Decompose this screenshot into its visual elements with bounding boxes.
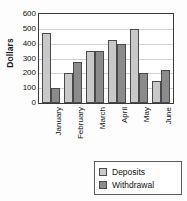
y-tick-label: 0 bbox=[14, 99, 36, 107]
x-tick-label: June bbox=[164, 107, 173, 124]
plot-area bbox=[38, 13, 174, 104]
bar-group bbox=[86, 14, 104, 103]
y-tick-label: 500 bbox=[14, 25, 36, 33]
bar-may-withdrawal bbox=[139, 73, 148, 103]
bar-group bbox=[152, 14, 170, 103]
bar-group bbox=[130, 14, 148, 103]
y-tick-label: 200 bbox=[14, 69, 36, 77]
bar-january-deposits bbox=[42, 33, 51, 103]
legend-item-withdrawal[interactable]: Withdrawal bbox=[99, 178, 177, 191]
bar-february-deposits bbox=[64, 73, 73, 103]
x-tick-label: January bbox=[54, 107, 63, 135]
bar-group bbox=[108, 14, 126, 103]
legend-item-deposits[interactable]: Deposits bbox=[99, 165, 177, 178]
bar-june-deposits bbox=[152, 81, 161, 103]
bar-april-deposits bbox=[108, 40, 117, 103]
bar-january-withdrawal bbox=[51, 88, 60, 103]
bar-groups bbox=[39, 14, 173, 103]
y-axis-tick-labels: 0100200300400500600 bbox=[14, 13, 36, 104]
chart-screenshot: Dollars 0100200300400500600 JanuaryFebru… bbox=[0, 0, 187, 201]
bar-chart: Dollars 0100200300400500600 JanuaryFebru… bbox=[0, 0, 187, 125]
legend-swatch-icon bbox=[99, 168, 107, 176]
bar-march-deposits bbox=[86, 51, 95, 103]
y-tick-label: 100 bbox=[14, 84, 36, 92]
bar-february-withdrawal bbox=[73, 62, 82, 103]
bar-may-deposits bbox=[130, 29, 139, 103]
x-tick-label: February bbox=[76, 107, 85, 139]
legend-label: Withdrawal bbox=[112, 180, 154, 190]
x-tick-label: April bbox=[120, 107, 129, 123]
legend-label: Deposits bbox=[112, 167, 145, 177]
y-tick-label: 600 bbox=[14, 10, 36, 18]
legend-swatch-icon bbox=[99, 181, 107, 189]
bar-june-withdrawal bbox=[161, 70, 170, 103]
y-tick-label: 300 bbox=[14, 55, 36, 63]
x-axis-tick-labels: JanuaryFebruaryMarchAprilMayJune bbox=[38, 105, 174, 153]
chart-legend: DepositsWithdrawal bbox=[94, 161, 182, 195]
bar-april-withdrawal bbox=[117, 44, 126, 103]
bar-march-withdrawal bbox=[95, 51, 104, 103]
x-tick-label: March bbox=[98, 107, 107, 129]
x-tick-label: May bbox=[142, 107, 151, 122]
bar-group bbox=[42, 14, 60, 103]
y-tick-label: 400 bbox=[14, 40, 36, 48]
bar-group bbox=[64, 14, 82, 103]
